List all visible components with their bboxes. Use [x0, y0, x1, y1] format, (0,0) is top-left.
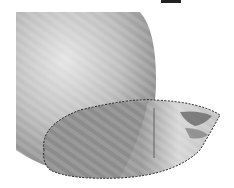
- image-canvas[interactable]: [0, 0, 234, 188]
